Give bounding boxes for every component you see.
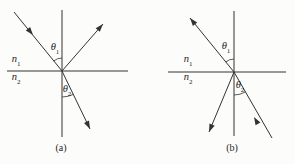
diagram-a [0,0,148,164]
incident-arrowhead [252,116,261,126]
n2-label: n2 [184,72,193,85]
theta2-label: θ2 [236,80,245,93]
refracted-ray [62,71,90,129]
refraction-figure: θ1 θ2 n1 n2 (a) θ1 θ2 n1 n2 (b) [0,0,295,164]
reflected-arrowhead [206,124,214,134]
reflected-ray [209,72,234,132]
panel-b-caption: (b) [226,143,238,153]
theta-subscript: 2 [68,90,72,98]
n-subscript: 2 [189,78,193,86]
n2-label: n2 [12,72,21,85]
panel-a: θ1 θ2 n1 n2 (a) [0,0,148,164]
theta-subscript: 1 [56,48,60,56]
refracted-arrowhead [84,121,93,131]
panel-a-caption: (a) [55,143,66,153]
theta1-arc [226,59,234,62]
theta2-label: θ2 [63,84,72,97]
theta1-label: θ1 [222,41,231,54]
theta1-label: θ1 [51,42,60,55]
diagram-b [148,0,295,164]
panel-b: θ1 θ2 n1 n2 (b) [148,0,295,164]
n1-label: n1 [12,54,21,67]
theta1-arc [54,58,62,61]
theta-subscript: 2 [241,86,245,94]
reflected-ray [62,24,103,71]
theta-subscript: 1 [227,47,231,55]
n-subscript: 1 [189,60,193,68]
n-subscript: 1 [17,60,21,68]
n1-label: n1 [184,54,193,67]
n-subscript: 2 [17,78,21,86]
